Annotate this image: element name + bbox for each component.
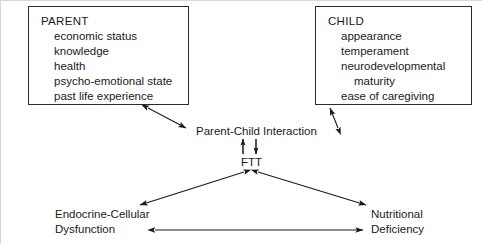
ftt-conceptual-diagram: PARENT economic status knowledge health … — [0, 0, 482, 244]
edge-parent-interaction — [148, 108, 186, 128]
edge-ftt-endocrine — [140, 172, 244, 205]
edge-ftt-nutritional — [258, 172, 366, 205]
arrow-layer — [0, 0, 482, 244]
edge-child-interaction — [330, 108, 338, 128]
